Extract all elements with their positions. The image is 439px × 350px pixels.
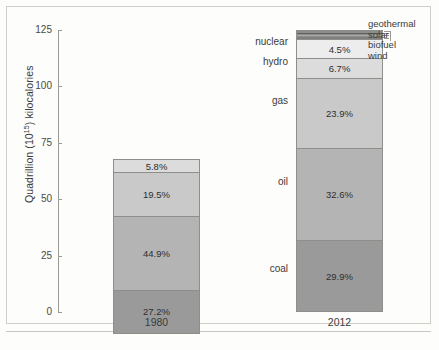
- x-axis-label-2012: 2012: [296, 316, 383, 328]
- bar-segment-coal-2012[interactable]: 29.9%: [296, 240, 383, 312]
- stacked-bar-2012[interactable]: 4.5% 6.7% 23.9% 32.6% 29.9%: [296, 30, 383, 312]
- y-axis-title-suffix: ) kilocalories: [23, 65, 35, 125]
- y-tick-mark-50: [58, 199, 62, 200]
- y-tick-label-50: 50: [41, 193, 52, 204]
- bar-segment-oil-2012[interactable]: 32.6%: [296, 148, 383, 240]
- bar-segment-label: 4.5%: [329, 44, 351, 55]
- y-tick-mark-125: [58, 30, 62, 31]
- y-axis-title-prefix: Quadrillion (10: [23, 133, 35, 203]
- y-tick-label-125: 125: [35, 24, 52, 35]
- stacked-bar-1980[interactable]: 5.8% 19.5% 44.9% 27.2%: [113, 159, 200, 312]
- y-axis-title: Quadrillion (1015) kilocalories: [23, 19, 36, 249]
- bar-segment-label: 29.9%: [326, 271, 353, 282]
- y-axis-line: [58, 30, 59, 312]
- bar-segment-hydro-1980[interactable]: 5.8%: [113, 159, 200, 172]
- category-label-oil: oil: [218, 176, 288, 187]
- bar-segment-label: 23.9%: [326, 108, 353, 119]
- category-label-hydro: hydro: [218, 56, 288, 67]
- footer-divider: [6, 331, 431, 332]
- y-axis-title-exponent: 15: [23, 125, 30, 133]
- category-label-coal: coal: [218, 263, 288, 274]
- legend-item-geothermal[interactable]: geothermal: [368, 19, 416, 30]
- y-tick-mark-75: [58, 143, 62, 144]
- y-tick-label-0: 0: [46, 306, 52, 317]
- y-tick-label-100: 100: [35, 80, 52, 91]
- bar-segment-label: 6.7%: [329, 63, 351, 74]
- bar-segment-label: 5.8%: [146, 161, 168, 172]
- x-axis-label-1980: 1980: [113, 316, 200, 328]
- bar-segment-label: 19.5%: [143, 189, 170, 200]
- bar-segment-label: 32.6%: [326, 189, 353, 200]
- y-tick-label-75: 75: [41, 137, 52, 148]
- y-tick-mark-100: [58, 86, 62, 87]
- bar-segment-oil-1980[interactable]: 44.9%: [113, 216, 200, 290]
- bar-segment-gas-2012[interactable]: 23.9%: [296, 78, 383, 149]
- y-tick-mark-0: [58, 312, 62, 313]
- legend: geothermal solar biofuel wind: [368, 19, 416, 61]
- y-tick-mark-25: [58, 256, 62, 257]
- y-tick-label-25: 25: [41, 250, 52, 261]
- legend-item-wind[interactable]: wind: [368, 51, 416, 62]
- bar-segment-gas-1980[interactable]: 19.5%: [113, 172, 200, 216]
- category-label-nuclear: nuclear: [218, 36, 288, 47]
- category-label-gas: gas: [218, 95, 288, 106]
- bar-segment-label: 44.9%: [143, 248, 170, 259]
